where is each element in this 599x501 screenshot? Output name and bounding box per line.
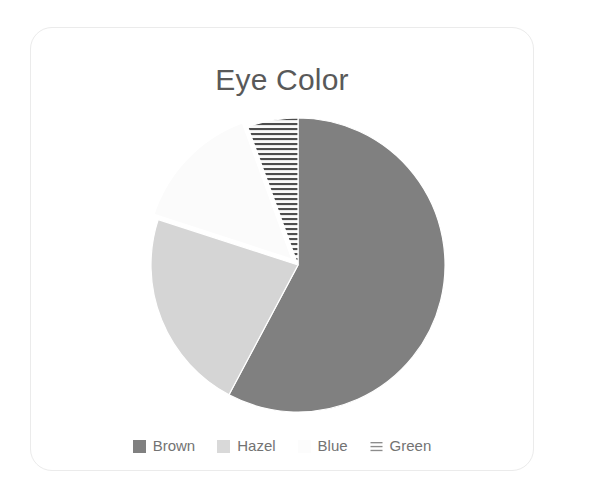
pie-slices-group — [151, 118, 445, 412]
legend-item-hazel[interactable]: Hazel — [217, 438, 275, 454]
legend-label-blue: Blue — [318, 438, 348, 454]
legend-item-blue[interactable]: Blue — [298, 438, 348, 454]
screenshot-root: Eye Color — [0, 0, 599, 501]
legend-label-green: Green — [390, 438, 432, 454]
legend-item-green[interactable]: Green — [370, 438, 432, 454]
hazel-swatch-icon — [217, 440, 230, 453]
pie-chart-svg — [31, 28, 535, 472]
green-swatch-icon — [370, 440, 383, 453]
chart-card: Eye Color — [30, 27, 534, 471]
legend-label-hazel: Hazel — [237, 438, 275, 454]
legend-label-brown: Brown — [153, 438, 196, 454]
pie-chart-area — [31, 28, 535, 472]
legend-item-brown[interactable]: Brown — [133, 438, 196, 454]
brown-swatch-icon — [133, 440, 146, 453]
blue-swatch-icon — [298, 440, 311, 453]
chart-legend: Brown Hazel Blue — [31, 438, 533, 454]
